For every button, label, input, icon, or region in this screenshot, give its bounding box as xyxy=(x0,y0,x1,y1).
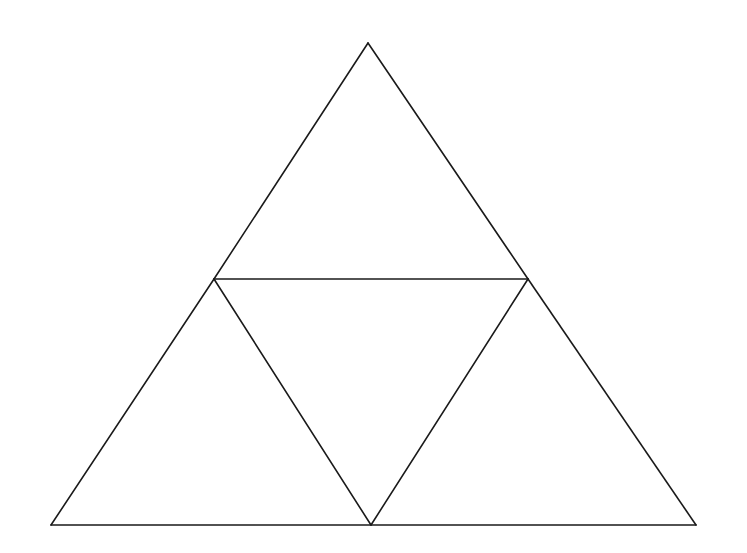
triangle-diagram xyxy=(0,0,747,553)
outer-left-edge-upper xyxy=(214,43,368,279)
inner-left-diagonal xyxy=(214,279,371,525)
inner-right-diagonal xyxy=(371,279,528,525)
outer-right-edge-upper xyxy=(368,43,528,279)
diagram-canvas xyxy=(0,0,747,553)
outer-left-edge-lower xyxy=(51,279,214,525)
outer-right-edge-lower xyxy=(528,279,696,525)
